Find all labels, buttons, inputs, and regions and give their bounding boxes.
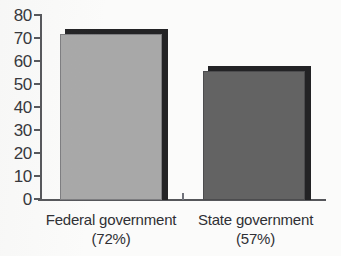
y-axis-line	[40, 14, 42, 201]
y-axis-tick-label-20: 20	[0, 145, 32, 162]
bar-chart: 80 70 60 50 40 30 20 10 0 Federal govern…	[0, 0, 341, 256]
y-axis-tick-label-30: 30	[0, 122, 32, 139]
bar-state-fill	[203, 71, 305, 200]
y-axis-tick-label-0: 0	[0, 191, 32, 208]
y-axis-tick-label-70: 70	[0, 30, 32, 47]
x-axis-label-federal-government-percent: (72%)	[30, 229, 192, 248]
x-axis-label-federal-government: Federal government (72%)	[30, 210, 192, 248]
y-axis-tick-label-50: 50	[0, 76, 32, 93]
x-axis-mid-tick	[182, 193, 184, 200]
x-axis-label-federal-government-name: Federal government	[46, 211, 177, 228]
bar-federal-fill	[60, 34, 162, 200]
y-axis-tick-label-60: 60	[0, 53, 32, 70]
x-axis-label-state-government: State government (57%)	[178, 210, 333, 248]
y-axis-tick-labels: 80 70 60 50 40 30 20 10 0	[0, 0, 32, 256]
x-axis-label-state-government-percent: (57%)	[178, 229, 333, 248]
y-axis-tick-label-80: 80	[0, 7, 32, 24]
x-axis-label-state-government-name: State government	[198, 211, 313, 228]
y-axis-tick-label-10: 10	[0, 168, 32, 185]
y-axis-tick-label-40: 40	[0, 99, 32, 116]
